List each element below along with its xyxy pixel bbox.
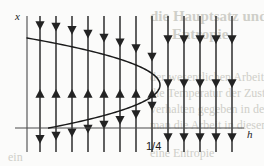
axes xyxy=(15,16,244,152)
fixed-point-parabola xyxy=(27,38,160,128)
axis-label-h: h xyxy=(247,128,253,140)
bifurcation-diagram-figure: die Hauptsatz und "empirie Entropie der … xyxy=(0,0,264,166)
tick-label-one-quarter: 1/4 xyxy=(146,140,161,152)
bifurcation-plot-svg xyxy=(0,0,264,166)
axis-label-x: x xyxy=(15,10,20,22)
